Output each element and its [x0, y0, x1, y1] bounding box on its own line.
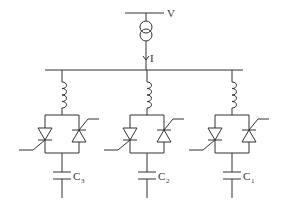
- branch-3: C3: [19, 70, 99, 198]
- capacitor-label: C: [73, 170, 80, 182]
- capacitor-label: C: [243, 170, 250, 182]
- current-arrow: I: [143, 41, 154, 70]
- inductor-icon: [147, 70, 152, 115]
- inductor-icon: [62, 70, 67, 115]
- branch-1: C1: [189, 70, 269, 198]
- source: V: [125, 7, 175, 21]
- branch-2: C2: [104, 70, 184, 198]
- circuit-diagram: V I C3C2C1: [0, 0, 288, 204]
- transformer-icon: [140, 21, 152, 41]
- capacitor-subscript: 2: [166, 177, 170, 185]
- current-label: I: [150, 52, 154, 64]
- inductor-icon: [232, 70, 237, 115]
- capacitor-icon: [53, 153, 71, 198]
- capacitor-icon: [223, 153, 241, 198]
- capacitor-icon: [138, 153, 156, 198]
- branches: C3C2C1: [19, 70, 269, 198]
- thyristor-down-icon: [19, 128, 52, 150]
- thyristor-down-icon: [189, 128, 222, 150]
- thyristor-up-icon: [72, 119, 99, 142]
- capacitor-subscript: 3: [81, 177, 85, 185]
- capacitor-subscript: 1: [251, 177, 255, 185]
- capacitor-label: C: [158, 170, 165, 182]
- thyristor-up-icon: [157, 119, 184, 142]
- voltage-label: V: [167, 7, 175, 19]
- thyristor-up-icon: [242, 119, 269, 142]
- thyristor-down-icon: [104, 128, 137, 150]
